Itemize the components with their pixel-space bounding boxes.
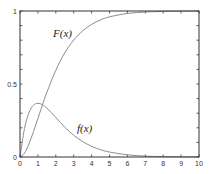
x-tick-label: 4	[90, 160, 94, 167]
y-tick-label: 0	[13, 154, 17, 161]
x-tick-label: 3	[72, 160, 76, 167]
cdf-label: F(x)	[52, 27, 72, 40]
cdf-curve	[20, 11, 199, 157]
x-tick-label: 10	[195, 160, 203, 167]
x-tick-label: 5	[108, 160, 112, 167]
x-tick-label: 1	[36, 160, 40, 167]
x-tick-label: 8	[161, 160, 165, 167]
pdf-label: f(x)	[77, 122, 93, 135]
y-tick-label: 1	[13, 8, 17, 15]
pdf-curve	[20, 103, 199, 157]
axis-ticks	[20, 11, 199, 157]
x-tick-label: 9	[179, 160, 183, 167]
x-tick-label: 7	[143, 160, 147, 167]
chart: 01234567891000.51 F(x) f(x)	[0, 0, 211, 174]
x-tick-label: 0	[18, 160, 22, 167]
plot-frame	[20, 11, 199, 157]
x-tick-label: 6	[125, 160, 129, 167]
x-tick-label: 2	[54, 160, 58, 167]
y-tick-label: 0.5	[7, 81, 17, 88]
axis-tick-labels: 01234567891000.51	[7, 8, 203, 168]
